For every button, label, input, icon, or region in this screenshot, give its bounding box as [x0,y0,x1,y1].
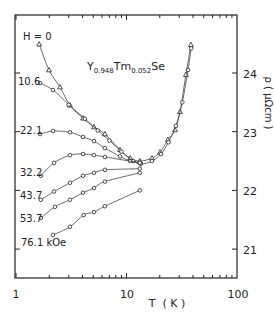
circle-marker [174,124,178,128]
circle-marker [51,129,55,133]
circle-marker [53,205,57,209]
circle-marker [68,225,72,229]
series-line [41,173,140,218]
x-tick-label-10: 10 [120,288,134,301]
circle-marker [83,117,87,121]
circle-marker [167,140,171,144]
triangle-marker [47,67,52,71]
circle-marker [138,161,142,165]
circle-marker [52,161,56,165]
circle-marker [138,171,142,175]
chart-title: Y0.948Tm0.052Se [86,60,165,75]
y-tick-label-24: 24 [243,68,257,81]
circle-marker [186,68,190,72]
circle-marker [103,204,107,208]
circle-marker [103,180,107,184]
circle-marker [150,159,154,163]
circle-marker [138,189,142,193]
circle-marker [103,155,107,159]
y-tick-label-21: 21 [243,244,257,257]
triangle-marker [37,42,42,46]
circle-marker [138,167,142,171]
circle-marker [103,146,107,150]
triangle-marker [189,42,194,46]
triangle-marker [58,84,63,88]
circle-marker [68,130,72,134]
circle-marker [68,198,72,202]
circle-marker [82,213,86,217]
circle-marker [81,135,85,139]
circle-marker [68,153,72,157]
circle-marker [51,88,55,92]
x-axis-title: T ( K ) [148,297,186,310]
y-axis-title: ρ ( μΩcm ) [263,77,274,130]
circle-marker [92,186,96,190]
chart: 1 10 100 T ( K ) 24 23 22 21 ρ ( μΩcm ) … [0,0,274,315]
circle-marker [181,101,185,105]
circle-marker [159,152,163,156]
y-axis-ticks [15,73,237,249]
y-tick-label-22: 22 [243,185,257,198]
x-tick-label-100: 100 [228,288,249,301]
circle-marker [118,155,122,159]
circle-marker [68,181,72,185]
circle-marker [92,139,96,143]
circle-marker [189,47,193,51]
series-line [41,154,140,176]
circle-marker [96,129,100,133]
series-label-43-7: 43.7 [20,190,42,201]
circle-marker [81,191,85,195]
series-line [53,190,140,235]
series-label-76-1: 76.1 kOe [21,237,66,248]
series-label-53-7: 53.7 [20,213,42,224]
circle-marker [103,168,107,172]
circle-marker [81,152,85,156]
circle-marker [108,139,112,143]
series-label-32-2: 32.2 [20,167,42,178]
y-tick-label-23: 23 [243,127,257,140]
circle-marker [92,210,96,214]
circle-marker [120,150,124,154]
circle-marker [52,190,56,194]
series-label-22-1: 22.1 [20,125,42,136]
x-tick-label-1: 1 [13,288,20,301]
series-line [41,169,140,200]
series-label-10-6: 10.6 [18,76,40,87]
circle-marker [92,153,96,157]
circle-marker [67,103,71,107]
circle-marker [92,171,96,175]
circle-marker [81,174,85,178]
series-label-h0: H = 0 [23,31,52,42]
series-line [40,131,140,163]
